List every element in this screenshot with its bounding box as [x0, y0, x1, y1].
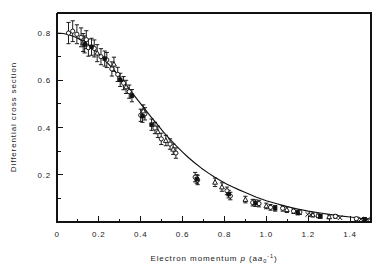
fit-curve-path [57, 33, 371, 219]
data-point-circle [75, 32, 79, 36]
y-tick-label: 0.4 [37, 124, 51, 133]
data-point-square [319, 215, 323, 219]
data-point-circle [110, 67, 114, 71]
data-point-circle [66, 31, 70, 35]
data-point-circle [333, 214, 337, 218]
data-markers-layer [66, 29, 369, 222]
y-axis-title: Differential cross section [9, 62, 18, 172]
data-point-circle [116, 72, 120, 76]
x-axis-tick-labels: 00.20.40.60.81.01.21.4 [54, 230, 356, 239]
differential-cross-section-plot: 00.20.40.60.81.01.21.4 0.20.40.60.8 Elec… [0, 0, 386, 270]
data-point-square [150, 123, 154, 127]
y-tick-label: 0.6 [37, 76, 51, 85]
data-point-triangle [264, 203, 269, 207]
error-bars-layer [66, 21, 366, 221]
figure-container: 00.20.40.60.81.01.21.4 0.20.40.60.8 Elec… [0, 0, 386, 270]
y-axis-tick-labels: 0.20.40.60.8 [37, 29, 51, 180]
data-point-square [90, 45, 94, 49]
data-point-square [118, 78, 122, 82]
data-point-circle [291, 209, 295, 213]
data-point-circle [159, 137, 163, 141]
data-point-circle [84, 38, 88, 42]
data-point-triangle [171, 147, 176, 151]
data-point-circle [354, 217, 358, 221]
data-point-square [83, 43, 87, 47]
x-tick-label: 1.2 [301, 230, 315, 239]
data-point-square [103, 57, 107, 61]
data-point-square [273, 207, 277, 211]
data-point-triangle [213, 180, 218, 184]
x-tick-label: 1.4 [343, 230, 357, 239]
data-point-circle [79, 35, 83, 39]
x-tick-label: 1.0 [260, 230, 274, 239]
data-point-square [296, 211, 300, 215]
x-axis-title: Electron momentum p (aa0-1) [150, 253, 277, 265]
data-point-circle [127, 90, 131, 94]
plot-frame [57, 13, 371, 222]
data-point-triangle [243, 197, 248, 201]
data-point-circle [281, 206, 285, 210]
data-point-square [130, 94, 134, 98]
data-point-square [141, 114, 145, 118]
data-point-triangle [220, 184, 225, 188]
data-point-square [227, 192, 231, 196]
data-point-circle [71, 29, 75, 33]
x-tick-label: 0.2 [92, 230, 106, 239]
data-point-triangle [163, 138, 168, 142]
x-tick-label: 0.6 [176, 230, 190, 239]
x-tick-label: 0.8 [218, 230, 232, 239]
y-axis-title-text: Differential cross section [9, 62, 18, 172]
data-point-square [195, 177, 199, 181]
x-axis-title-text: Electron momentum p (aa0-1) [150, 253, 277, 265]
y-tick-label: 0.8 [37, 29, 51, 38]
data-point-circle [268, 205, 272, 209]
y-tick-label: 0.2 [37, 171, 51, 180]
fit-curve [57, 33, 371, 219]
data-point-square [254, 201, 258, 205]
x-tick-label: 0.4 [134, 230, 148, 239]
x-tick-label: 0 [54, 230, 59, 239]
